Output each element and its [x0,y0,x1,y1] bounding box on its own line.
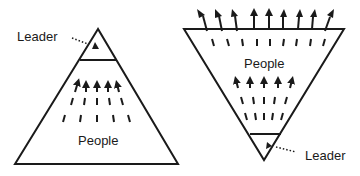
people-label: People [244,56,284,71]
leader-arrow-icon [92,42,99,49]
leader-pointer [276,147,296,152]
inverted-pyramid-outline [184,29,344,160]
inner-arrows [236,80,292,120]
left-pyramid: Leader People [15,29,178,164]
leader-label: Leader [17,29,58,44]
right-pyramid: Leader People [184,8,346,163]
upper-dashes [212,39,325,46]
leadership-diagram: Leader People Leader People [0,0,360,176]
people-label: People [78,133,118,148]
people-arrows [63,82,130,122]
leader-label: Leader [305,148,346,163]
outward-arrows [197,8,334,31]
leader-pointer [72,38,88,44]
